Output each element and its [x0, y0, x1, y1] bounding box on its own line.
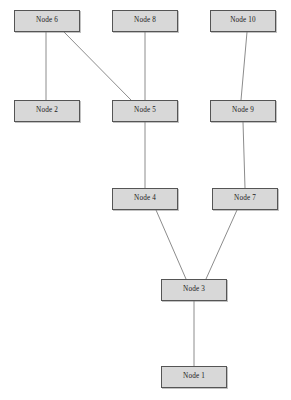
node-label: Node 5 [134, 107, 156, 114]
diagram-node-node-1[interactable]: Node 1 [161, 366, 227, 388]
node-label: Node 4 [134, 195, 156, 202]
node-label: Node 7 [234, 195, 256, 202]
diagram-node-node-5[interactable]: Node 5 [112, 100, 178, 122]
node-label: Node 2 [36, 107, 58, 114]
diagram-node-node-7[interactable]: Node 7 [212, 188, 278, 210]
diagram-node-node-2[interactable]: Node 2 [14, 100, 80, 122]
node-label: Node 8 [134, 17, 156, 24]
diagram-node-node-6[interactable]: Node 6 [14, 10, 80, 32]
diagram-node-node-9[interactable]: Node 9 [210, 100, 276, 122]
diagram-node-node-4[interactable]: Node 4 [112, 188, 178, 210]
diagram-node-node-3[interactable]: Node 3 [161, 279, 227, 301]
node-diagram-canvas: Node 6Node 8Node 10Node 2Node 5Node 9Nod… [0, 0, 291, 400]
node-label: Node 6 [36, 17, 58, 24]
node-label: Node 3 [183, 286, 205, 293]
diagram-node-node-10[interactable]: Node 10 [210, 10, 276, 32]
node-layer: Node 6Node 8Node 10Node 2Node 5Node 9Nod… [0, 0, 291, 400]
node-label: Node 9 [232, 107, 254, 114]
node-label: Node 10 [230, 17, 256, 24]
node-label: Node 1 [183, 373, 205, 380]
diagram-node-node-8[interactable]: Node 8 [112, 10, 178, 32]
